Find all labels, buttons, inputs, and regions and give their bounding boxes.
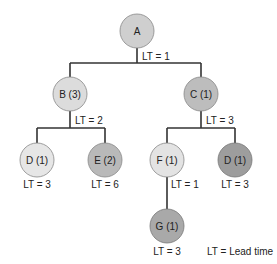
node-d-right-label: D (1) [224, 155, 246, 166]
lt-d-left: LT = 3 [23, 179, 51, 190]
node-b-label: B (3) [59, 89, 81, 100]
product-structure-tree: A B (3) C (1) D (1) E (2) F (1) D (1) G [0, 0, 277, 264]
legend-lead-time: LT = Lead time [207, 246, 273, 257]
lt-d-right: LT = 3 [221, 179, 249, 190]
lt-b: LT = 2 [75, 115, 103, 126]
connector-lines [37, 48, 235, 209]
lt-a: LT = 1 [142, 51, 170, 62]
node-a: A [120, 14, 154, 48]
node-c-label: C (1) [190, 89, 212, 100]
node-d-left-label: D (1) [26, 155, 48, 166]
lt-f: LT = 1 [171, 179, 199, 190]
node-a-label: A [134, 26, 141, 37]
lt-g: LT = 3 [153, 246, 181, 257]
node-g: G (1) [150, 209, 184, 243]
node-d-right: D (1) [218, 143, 252, 177]
lt-c: LT = 3 [206, 115, 234, 126]
node-b: B (3) [53, 77, 87, 111]
node-e: E (2) [88, 143, 122, 177]
node-d-left: D (1) [20, 143, 54, 177]
node-f-label: F (1) [156, 155, 177, 166]
node-g-label: G (1) [156, 221, 179, 232]
node-f: F (1) [150, 143, 184, 177]
node-e-label: E (2) [94, 155, 116, 166]
lt-e: LT = 6 [91, 179, 119, 190]
node-c: C (1) [184, 77, 218, 111]
